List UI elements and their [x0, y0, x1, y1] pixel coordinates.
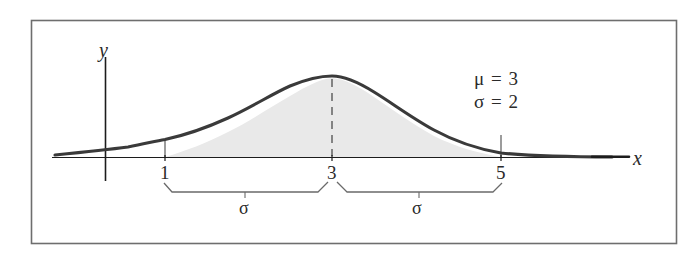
y-axis-label: y: [99, 40, 108, 60]
normal-distribution-figure: y x 1 3 5 σ σ μ = 3 σ = 2: [0, 0, 698, 260]
sigma-label-right: σ: [412, 199, 422, 217]
sigma-annotation: σ = 2: [474, 92, 519, 111]
x-tick-label-1: 1: [160, 163, 170, 182]
x-tick-label-5: 5: [496, 163, 506, 182]
x-tick-label-3: 3: [327, 163, 337, 182]
sigma-label-left: σ: [239, 199, 249, 217]
x-axis-label: x: [633, 148, 642, 168]
mu-annotation: μ = 3: [474, 69, 519, 88]
